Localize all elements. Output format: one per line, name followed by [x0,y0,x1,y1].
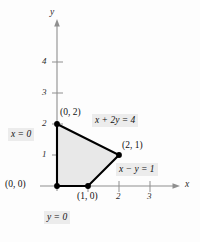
x-axis-label: x [185,180,189,190]
constraint-label-y-eq-0: y = 0 [44,211,70,224]
y-tick-label-3: 3 [42,88,47,97]
constraint-label-x-plus-2y-eq-4: x + 2y = 4 [92,114,138,127]
feasible-region-polygon [57,124,119,186]
constraint-label-x-minus-y-eq-1: x − y = 1 [116,163,158,176]
vertex-dot-0-0 [54,183,60,189]
vertex-dot-1-0 [85,183,91,189]
vertex-dot-0-2 [54,121,60,127]
vertex-dot-2-1 [116,152,122,158]
y-axis-arrowhead [54,19,60,27]
y-tick-label-1: 1 [42,150,47,159]
point-label-0-0: (0, 0) [5,180,26,190]
figure-canvas: y x 4 3 2 1 2 3 (0, 2) (2, 1) (0, 0) (1,… [0,0,200,242]
constraint-label-x-eq-0: x = 0 [8,128,34,141]
point-label-1-0: (1, 0) [77,192,98,202]
y-axis-label: y [50,8,54,18]
x-axis-arrowhead [173,183,181,189]
point-label-0-2: (0, 2) [60,108,81,118]
y-tick-label-2: 2 [42,119,47,128]
x-tick-label-2: 2 [116,192,121,201]
x-tick-label-3: 3 [147,192,152,201]
point-label-2-1: (2, 1) [122,141,143,151]
y-tick-label-4: 4 [42,57,47,66]
